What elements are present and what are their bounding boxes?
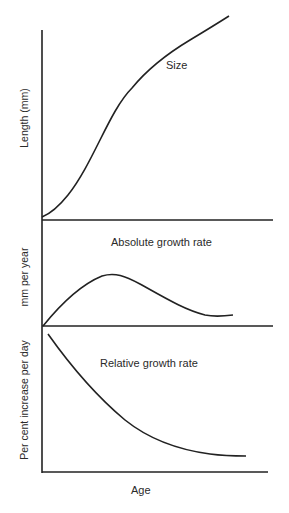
y-axis-label-length: Length (mm) (18, 88, 30, 148)
y-axis-label-mm-per-year: mm per year (18, 248, 30, 307)
absolute-growth-label: Absolute growth rate (111, 236, 212, 248)
x-axis-label: Age (131, 484, 151, 496)
size-label: Size (166, 59, 187, 71)
y-axis-label-percent: Per cent increase per day (18, 340, 30, 460)
growth-chart (0, 0, 289, 513)
size-curve (42, 16, 229, 217)
absolute-growth-curve (43, 274, 233, 326)
relative-growth-curve (48, 334, 246, 456)
relative-growth-label: Relative growth rate (100, 357, 198, 369)
